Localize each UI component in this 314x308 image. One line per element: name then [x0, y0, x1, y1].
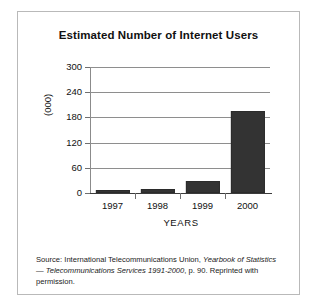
x-tick-label: 1998 [135, 200, 180, 211]
x-tick-mark [225, 193, 226, 199]
figure-frame: Estimated Number of Internet Users (000)… [17, 11, 300, 295]
bar-slot [225, 67, 270, 193]
bar-slot [135, 67, 180, 193]
bar[interactable] [185, 181, 219, 193]
y-tick-label: 180 [66, 113, 82, 123]
y-tick-label: 60 [71, 163, 82, 173]
y-axis-label: (000) [42, 94, 53, 116]
x-axis-line [90, 193, 272, 194]
bar[interactable] [140, 189, 174, 193]
bar-series [90, 67, 270, 193]
source-note: Source: International Telecommunications… [36, 254, 284, 287]
x-tick-label: 1999 [180, 200, 225, 211]
bar[interactable] [95, 190, 129, 193]
x-tick-label: 2000 [225, 200, 270, 211]
chart-title: Estimated Number of Internet Users [18, 29, 299, 41]
y-tick-label: 240 [66, 87, 82, 97]
source-publication-subtitle: Telecommunications Services 1991-2000 [46, 266, 185, 275]
source-publication-title: Yearbook of Statistics [203, 255, 276, 264]
x-tick-mark [135, 193, 136, 199]
bar[interactable] [230, 111, 264, 193]
y-tick-mark [85, 193, 90, 194]
x-tick-label: 1997 [90, 200, 135, 211]
source-prefix: Source: International Telecommunications… [36, 255, 203, 264]
y-tick-label: 0 [77, 188, 82, 198]
plot-area: 060120180240300 [90, 67, 270, 193]
bar-slot [90, 67, 135, 193]
y-tick-label: 120 [66, 138, 82, 148]
bar-slot [180, 67, 225, 193]
y-tick-label: 300 [66, 62, 82, 72]
x-tick-mark [180, 193, 181, 199]
source-separator: — [36, 266, 46, 275]
x-axis-label: YEARS [90, 217, 272, 228]
